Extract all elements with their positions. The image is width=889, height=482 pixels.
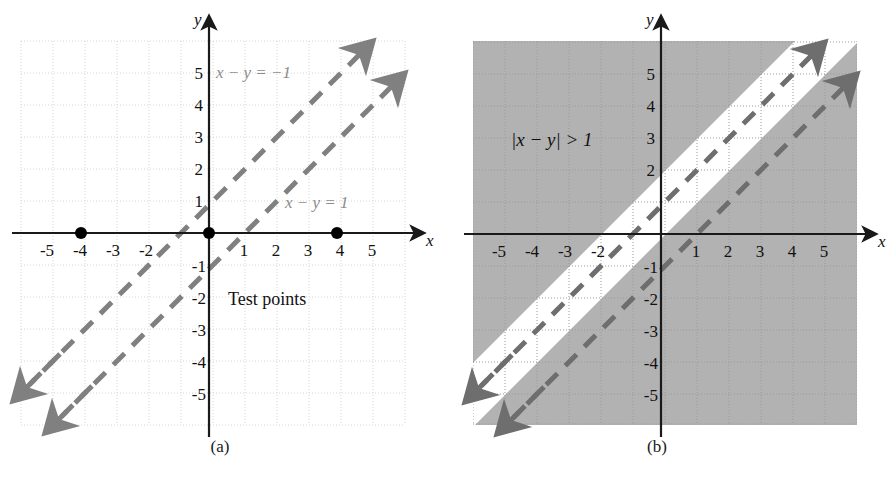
y-tick-b-1: 4 [647, 97, 656, 116]
caption-a: (a) [180, 437, 260, 457]
region-label-b: |x − y| > 1 [511, 129, 592, 150]
y-tick-a-0: 5 [195, 64, 204, 83]
figure-container: x y -5 -4 -3 -2 1 2 3 4 5 5 4 3 2 1 - [0, 0, 889, 482]
x-tick-b-3: -2 [591, 242, 605, 261]
graph-b: x y -5 -4 -3 -2 1 2 3 4 5 5 4 3 2 -1 [444, 0, 889, 482]
y-tick-b-6: -3 [644, 322, 658, 341]
y-tick-a-1: 4 [195, 96, 204, 115]
x-tick-a-3: -2 [139, 241, 153, 260]
y-tick-b-5: -2 [644, 290, 658, 309]
y-tick-b-4: -1 [644, 258, 658, 277]
test-point-4-0 [331, 227, 343, 239]
x-tick-a-0: -5 [40, 241, 54, 260]
x-tick-b-0: -5 [492, 242, 506, 261]
x-tick-b-6: 3 [756, 242, 765, 261]
y-tick-a-4: 1 [195, 192, 204, 211]
panel-a: x y -5 -4 -3 -2 1 2 3 4 5 5 4 3 2 1 - [0, 0, 445, 482]
test-point-neg4-0 [75, 227, 87, 239]
y-tick-a-8: -4 [192, 353, 207, 372]
x-tick-b-5: 2 [724, 242, 733, 261]
x-tick-a-6: 3 [304, 241, 313, 260]
test-points-annotation: Test points [228, 289, 306, 309]
x-tick-b-7: 4 [788, 242, 797, 261]
y-tick-a-3: 2 [195, 160, 204, 179]
y-tick-a-9: -5 [192, 385, 206, 404]
y-tick-a-6: -2 [192, 289, 206, 308]
axes-a [12, 22, 418, 437]
y-tick-a-7: -3 [192, 321, 206, 340]
y-tick-b-7: -4 [644, 354, 659, 373]
x-tick-a-2: -3 [106, 241, 120, 260]
graph-a: x y -5 -4 -3 -2 1 2 3 4 5 5 4 3 2 1 - [0, 0, 445, 482]
caption-b: (b) [617, 437, 697, 457]
test-point-0-0 [203, 227, 215, 239]
x-axis-label-a: x [425, 231, 434, 250]
x-tick-a-8: 5 [368, 241, 377, 260]
line-label-lower-a: x − y = 1 [284, 193, 349, 212]
y-tick-b-3: 2 [647, 161, 656, 180]
y-tick-a-2: 3 [195, 128, 204, 147]
y-tick-b-0: 5 [647, 65, 656, 84]
y-axis-label-b: y [644, 10, 654, 29]
y-tick-b-8: -5 [644, 386, 658, 405]
x-tick-b-8: 5 [820, 242, 829, 261]
y-tick-b-2: 3 [647, 129, 656, 148]
y-tick-a-5: -1 [192, 257, 206, 276]
line-label-upper-a: x − y = −1 [215, 63, 291, 82]
x-tick-b-4: 1 [692, 242, 701, 261]
x-axis-label-b: x [877, 232, 886, 251]
x-tick-b-2: -3 [558, 242, 572, 261]
x-tick-a-7: 4 [336, 241, 345, 260]
x-tick-a-1: -4 [73, 241, 88, 260]
x-tick-a-5: 2 [272, 241, 281, 260]
x-tick-b-1: -4 [525, 242, 540, 261]
panel-b: x y -5 -4 -3 -2 1 2 3 4 5 5 4 3 2 -1 [444, 0, 889, 482]
y-axis-label-a: y [192, 10, 202, 29]
x-tick-a-4: 1 [240, 241, 249, 260]
